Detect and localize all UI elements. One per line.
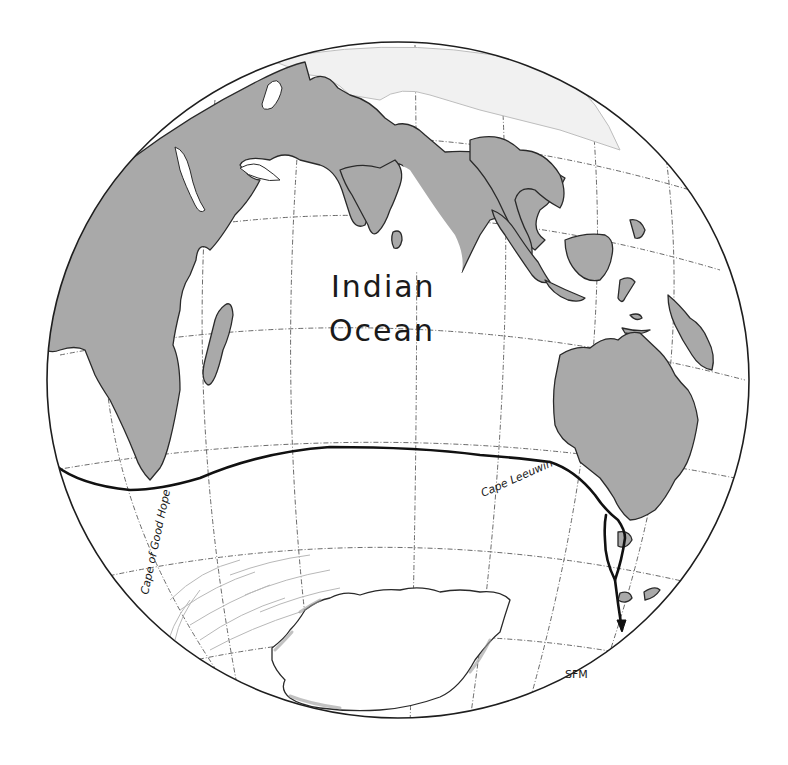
new-zealand-north [644, 588, 660, 600]
sulawesi [618, 278, 635, 302]
moluccas [630, 314, 642, 319]
sri-lanka [392, 231, 402, 248]
ocean-label-line1: Indian [331, 269, 436, 304]
new-zealand-south [618, 592, 632, 602]
label-cape-of-good-hope: Cape of Good Hope [138, 488, 173, 596]
australia [554, 332, 699, 520]
borneo [565, 234, 613, 280]
globe-map: Indian Ocean Cape of Good Hope Cape Leeu… [0, 0, 788, 765]
madagascar [203, 304, 233, 385]
artist-signature: SFM [565, 668, 588, 681]
java [545, 280, 585, 301]
ocean-label-line2: Ocean [329, 313, 435, 348]
label-cape-leeuwin: Cape Leeuwin [479, 456, 555, 499]
new-guinea [668, 295, 713, 370]
philippines [630, 220, 645, 239]
africa-arabia-asia [40, 62, 565, 480]
